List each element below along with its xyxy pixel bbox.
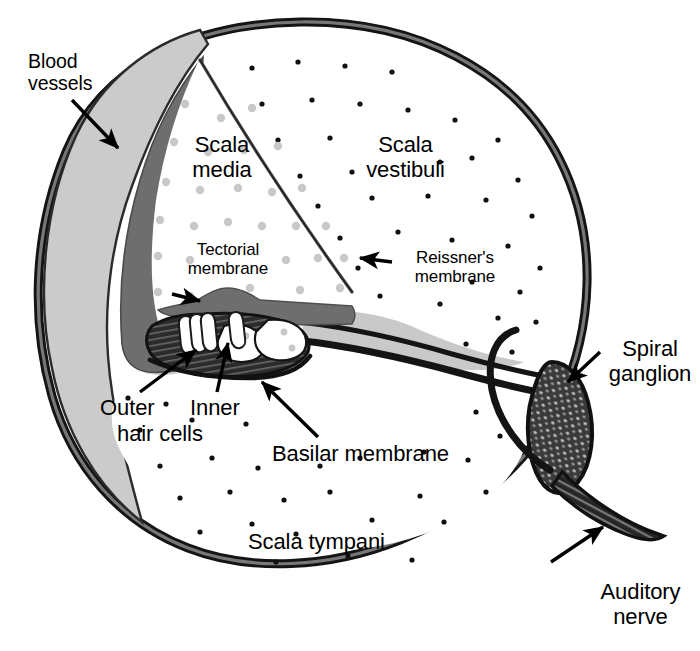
- label-spiral-ganglion: Spiral ganglion: [600, 337, 700, 386]
- label-hair-cells: hair cells: [117, 422, 203, 447]
- label-scala-media: Scala media: [167, 133, 277, 182]
- label-reissners-membrane: Reissner's membrane: [395, 248, 515, 286]
- inner-hair-cell: [229, 312, 245, 348]
- label-blood-vessels: Blood vessels: [28, 51, 92, 95]
- cochlea-cross-section-diagram: Blood vessels Scala media Scala vestibul…: [0, 0, 700, 651]
- label-outer-hair-cells: Outer: [100, 396, 155, 421]
- label-inner-hair-cells: Inner: [190, 396, 240, 421]
- outer-hair-cell-group: [179, 313, 217, 354]
- label-scala-vestibuli: Scala vestibuli: [343, 133, 468, 182]
- arrow-auditory-nerve: [551, 527, 603, 562]
- label-auditory-nerve: Auditory nerve: [588, 580, 693, 629]
- label-scala-tympani: Scala tympani: [248, 530, 385, 555]
- label-basilar-membrane: Basilar membrane: [272, 442, 449, 467]
- label-tectorial-membrane: Tectorial membrane: [168, 240, 288, 278]
